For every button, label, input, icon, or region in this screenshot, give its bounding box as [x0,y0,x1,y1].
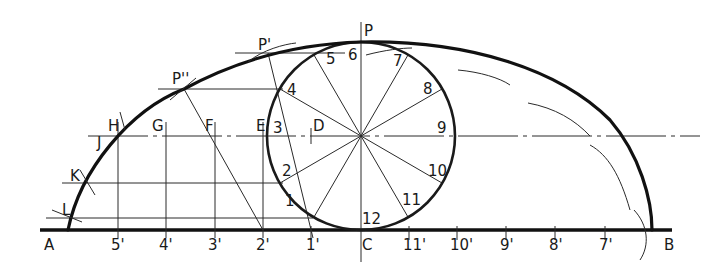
label-F: F [205,117,214,135]
cycloid-diagram: P P' P'' 1 2 3 4 5 6 7 8 9 10 11 12 D E … [0,0,712,279]
label-10: 10 [428,162,447,180]
label-D: D [313,117,325,135]
label-12: 12 [362,210,381,228]
label-1: 1 [285,192,295,210]
label-P: P [364,22,373,40]
label-8p: 8' [549,236,563,254]
label-2: 2 [282,162,292,180]
arc-marks [52,43,646,260]
label-A: A [44,236,55,254]
label-9: 9 [437,119,447,137]
label-9p: 9' [500,236,514,254]
label-1p: 1' [306,236,320,254]
label-11: 11 [402,191,421,209]
label-C: C [362,236,372,254]
label-L: L [62,201,71,219]
label-J: J [96,134,101,152]
label-4p: 4' [159,236,173,254]
label-3p: 3' [208,236,222,254]
label-7p: 7' [599,236,613,254]
label-G: G [152,117,164,135]
label-2p: 2' [256,236,270,254]
label-K: K [70,167,81,185]
label-10p: 10' [450,236,473,254]
label-6: 6 [348,46,358,64]
label-5p: 5' [111,236,125,254]
label-8: 8 [423,80,433,98]
label-B: B [664,236,674,254]
chord-P2-2p [184,89,263,230]
label-4: 4 [287,81,297,99]
label-5: 5 [326,50,336,68]
label-11p: 11' [403,236,426,254]
label-H: H [108,117,119,135]
label-7: 7 [393,52,403,70]
label-P1: P' [258,36,271,54]
label-3: 3 [273,119,283,137]
label-E: E [256,117,265,135]
label-P2: P'' [172,70,189,88]
